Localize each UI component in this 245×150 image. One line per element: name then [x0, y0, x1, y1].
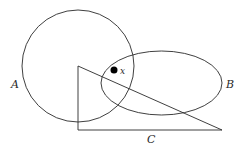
set-diagram: A B C x [0, 0, 245, 150]
label-b: B [225, 78, 234, 91]
set-c-triangle [78, 66, 222, 130]
label-c: C [147, 133, 156, 146]
label-x: x [120, 66, 125, 76]
element-x-point [111, 67, 118, 74]
set-b-ellipse [101, 51, 222, 115]
label-a: A [10, 78, 19, 91]
